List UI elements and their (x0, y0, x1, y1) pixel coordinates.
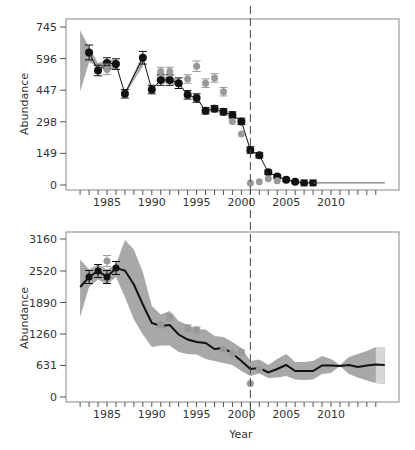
data-point (202, 107, 210, 115)
y-tick-label: 631 (36, 359, 57, 372)
top-y-axis: 0149298447596745 (36, 21, 66, 192)
data-point (211, 74, 218, 81)
x-tick-label: 2010 (317, 408, 345, 421)
data-point (238, 131, 245, 138)
data-point (193, 94, 201, 102)
data-point (166, 76, 174, 84)
data-point (219, 108, 227, 116)
bottom-y-axis-label: Abundance (18, 287, 31, 349)
data-point (211, 105, 219, 113)
x-tick-label: 2010 (317, 196, 345, 209)
data-point (112, 265, 119, 272)
top-x-axis: 198519901995200020052010 (80, 190, 376, 209)
bottom-x-axis: 198519901995200020052010 (80, 402, 376, 421)
data-point (157, 322, 164, 329)
data-point (157, 68, 164, 75)
x-tick-label: 1985 (93, 408, 121, 421)
data-point (229, 350, 236, 357)
data-point (86, 274, 93, 281)
y-tick-label: 2520 (29, 265, 57, 278)
data-point (112, 60, 120, 68)
data-point (228, 111, 236, 119)
y-tick-label: 1890 (29, 297, 57, 310)
data-point (95, 268, 102, 275)
y-tick-label: 149 (36, 147, 57, 160)
x-tick-label: 2000 (227, 196, 255, 209)
data-point (104, 274, 111, 281)
data-point (94, 66, 102, 74)
data-point (85, 48, 93, 56)
data-point (184, 325, 191, 332)
data-point (157, 76, 165, 84)
data-point (166, 314, 173, 321)
y-tick-label: 298 (36, 116, 57, 129)
data-point (256, 366, 263, 373)
x-tick-label: 1985 (93, 196, 121, 209)
data-point (238, 349, 245, 356)
data-point (265, 175, 272, 182)
data-point (121, 90, 129, 98)
data-point (166, 68, 173, 75)
x-tick-label: 2005 (272, 196, 300, 209)
data-point (291, 178, 299, 186)
data-point (202, 80, 209, 87)
data-point (184, 91, 192, 99)
data-point (193, 327, 200, 334)
x-tick-label: 1995 (183, 408, 211, 421)
x-tick-label: 1995 (183, 196, 211, 209)
y-tick-label: 1260 (29, 328, 57, 341)
data-point (139, 54, 147, 62)
x-tick-label: 2005 (272, 408, 300, 421)
data-point (282, 176, 290, 184)
bottom-plot-frame (66, 232, 399, 402)
y-tick-label: 745 (36, 21, 57, 34)
data-point (148, 86, 156, 94)
data-point (104, 258, 111, 265)
y-tick-label: 447 (36, 84, 57, 97)
x-tick-label: 2000 (227, 408, 255, 421)
x-tick-label: 1990 (138, 408, 166, 421)
data-point (256, 178, 263, 185)
data-point (184, 75, 191, 82)
y-tick-label: 3160 (29, 233, 57, 246)
bottom-y-axis: 06311260189025203160 (29, 233, 66, 404)
x-tick-label: 1990 (138, 196, 166, 209)
y-tick-label: 596 (36, 53, 57, 66)
data-point-square (301, 179, 308, 186)
bottom-x-axis-label: Year (228, 428, 253, 441)
bottom-panel: 06311260189025203160 1985199019952000200… (18, 232, 399, 441)
data-point (175, 79, 183, 87)
data-point (104, 66, 111, 73)
chart-canvas: 0149298447596745 19851990199520002005201… (0, 0, 415, 450)
data-point (274, 177, 281, 184)
data-point (237, 117, 245, 125)
figure: 0149298447596745 19851990199520002005201… (0, 0, 415, 450)
top-plot-frame (66, 19, 399, 190)
top-y-axis-label: Abundance (18, 73, 31, 135)
data-point (264, 168, 272, 176)
data-point (255, 151, 263, 159)
data-point (193, 63, 200, 70)
data-point (220, 88, 227, 95)
top-panel: 0149298447596745 19851990199520002005201… (18, 19, 399, 209)
y-tick-label: 0 (50, 391, 57, 404)
y-tick-label: 0 (50, 179, 57, 192)
data-point (229, 118, 236, 125)
data-point (220, 346, 227, 353)
